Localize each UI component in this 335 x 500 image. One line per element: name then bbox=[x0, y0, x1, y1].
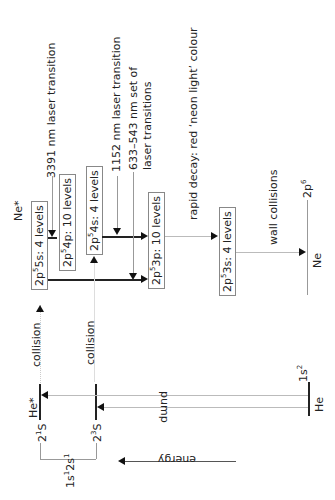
he-ground-label: He bbox=[313, 397, 326, 412]
arrow-4s-3p-icon bbox=[141, 232, 148, 240]
transition-3p-3s bbox=[165, 236, 212, 237]
arrow-3391-icon bbox=[48, 230, 56, 237]
arrow-energy-icon bbox=[118, 457, 125, 465]
label-pump: pump bbox=[158, 391, 171, 423]
transition-4s-3p bbox=[102, 236, 142, 238]
transition-5s-3p bbox=[48, 279, 142, 281]
label-3391nm: 3391 nm laser transition bbox=[45, 43, 58, 178]
label-collision-2: collision bbox=[84, 321, 97, 365]
he-config-label: 1s12s1 bbox=[64, 454, 77, 488]
level-2p5-4s: 2p54s: 4 levels bbox=[86, 166, 103, 255]
energy-axis-label: energy bbox=[158, 453, 196, 466]
arrow-pump-1-icon bbox=[41, 391, 48, 399]
level-2p5-5s: 2p55s: 4 levels bbox=[31, 201, 48, 290]
label-collision-1: collision bbox=[30, 323, 43, 367]
label-wall-collisions: wall collisions bbox=[267, 169, 280, 245]
ne-ground-config: 2p6 bbox=[301, 180, 314, 198]
arrow-3p-3s-icon bbox=[211, 232, 218, 240]
arrow-collision-2-icon bbox=[90, 256, 98, 263]
arrow-5s-3p-icon bbox=[141, 275, 148, 283]
arrow-wall-icon bbox=[299, 248, 306, 256]
label-633nm-line1: 633–543 nm set of bbox=[127, 67, 140, 170]
he-ground-level bbox=[308, 382, 310, 416]
he-excited-label: He* bbox=[27, 397, 40, 418]
pointer-1152 bbox=[117, 176, 118, 230]
pump-line-2 bbox=[100, 407, 308, 408]
level-2p5-3s: 2p53s: 4 levels bbox=[219, 207, 236, 296]
he-ground-config: 1s2 bbox=[297, 365, 310, 382]
ne-ground-label: Ne bbox=[311, 253, 324, 268]
arrow-collision-1-icon bbox=[36, 305, 44, 312]
level-2p5-4p: 2p54p: 10 levels bbox=[59, 174, 76, 271]
label-1152nm: 1152 nm laser transition bbox=[110, 37, 123, 172]
level-2p5-3p: 2p53p: 10 levels bbox=[148, 192, 165, 289]
he-2-3S-level bbox=[95, 384, 97, 420]
pump-line-1 bbox=[44, 395, 308, 396]
he-2-3S-label: 23S bbox=[91, 424, 104, 442]
label-633nm-line2: laser transitions bbox=[141, 82, 154, 170]
pointer-633 bbox=[133, 172, 134, 275]
ne-ground-level bbox=[307, 200, 308, 295]
transition-3s-ground bbox=[236, 252, 300, 253]
ne-excited-label: Ne* bbox=[12, 201, 25, 222]
arrow-pump-2-icon bbox=[97, 403, 104, 411]
he-2-1S-label: 21S bbox=[36, 424, 49, 442]
transition-5s-4p bbox=[48, 237, 57, 239]
arrow-1152-icon bbox=[113, 228, 121, 235]
label-rapid-decay: rapid decay: red ‘neon light’ colour bbox=[187, 27, 200, 220]
pointer-3391 bbox=[52, 176, 53, 232]
